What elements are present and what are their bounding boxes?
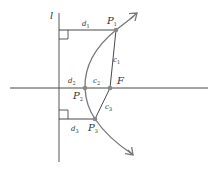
parabola-curve [85,16,134,154]
right-angle-marker-1 [59,30,68,39]
d2-label: d2 [68,77,76,86]
point-p2 [83,86,88,91]
d3-label: d3 [71,125,79,134]
right-angle-marker-3 [59,110,68,119]
p2-label: P2 [72,90,83,102]
point-p3 [93,117,98,122]
point-p1 [114,28,119,33]
arrow-upper [130,13,137,19]
p1-label: P1 [106,15,117,27]
directrix-label: l [50,10,53,21]
c2-label: c2 [93,77,100,86]
point-focus [108,86,113,91]
p3-label: P3 [87,122,98,134]
focus-label: F [116,75,125,86]
c3-label: c3 [105,103,112,112]
c1-label: c1 [113,56,120,65]
parabola-diagram: l d1 P1 c1 d2 c2 F P2 c3 d3 P3 [0,0,219,173]
d1-label: d1 [82,20,90,29]
